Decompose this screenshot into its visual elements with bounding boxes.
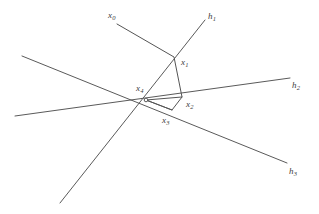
- line-label-h2-base: h: [292, 80, 297, 90]
- line-label-h2: h2: [292, 81, 300, 90]
- segment-x4-to-x3: [146, 100, 172, 110]
- point-label-x0: x0: [108, 11, 115, 20]
- line-label-h1-base: h: [208, 11, 213, 21]
- line-label-h2-subscript: 2: [297, 84, 300, 91]
- point-label-x4-subscript: 4: [140, 87, 143, 94]
- diagram-canvas: [0, 0, 319, 214]
- line-label-h1: h1: [208, 12, 216, 21]
- line-h2: [15, 78, 290, 116]
- line-label-h3: h3: [289, 167, 297, 176]
- point-label-x3: x3: [162, 116, 169, 125]
- line-label-h3-subscript: 3: [294, 170, 297, 177]
- point-label-x1-subscript: 1: [185, 61, 188, 68]
- line-label-h1-subscript: 1: [213, 15, 216, 22]
- point-label-x3-subscript: 3: [166, 119, 169, 126]
- point-label-x4: x4: [136, 84, 143, 93]
- point-label-x2-subscript: 2: [190, 103, 193, 110]
- line-h1: [60, 20, 205, 203]
- line-label-h3-base: h: [289, 166, 294, 176]
- point-label-x0-subscript: 0: [112, 14, 115, 21]
- vertex-node-x4: [144, 98, 148, 102]
- point-label-x1: x1: [181, 58, 188, 67]
- point-label-x2: x2: [186, 100, 193, 109]
- nodes-group: [144, 98, 148, 102]
- geometry-diagram: x0x1x2x3x4h1h2h3: [0, 0, 319, 214]
- lines-group: [15, 20, 290, 203]
